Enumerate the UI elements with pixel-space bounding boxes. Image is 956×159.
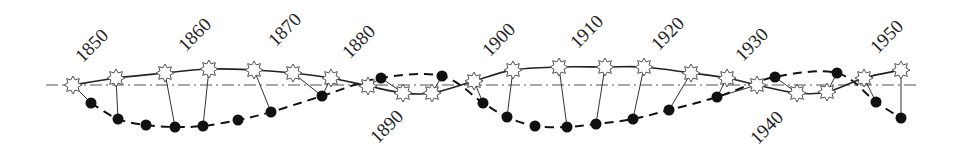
dot-marker [266,107,277,118]
dot-marker [170,122,181,133]
star-marker-icon [245,61,263,79]
star-marker-icon [423,84,441,102]
star-marker-icon [855,69,873,87]
star-marker-icon [322,69,340,87]
dot-marker [591,119,602,130]
dot-marker [233,115,244,126]
dot-marker [198,121,209,132]
dot-marker [664,105,675,116]
star-marker-icon [504,61,522,79]
star-marker-icon [359,77,377,95]
year-label: 1950 [866,16,908,58]
dot-marker [141,120,152,131]
star-marker-icon [200,60,218,78]
dot-marker [628,114,639,125]
year-label: 1870 [264,9,306,51]
year-label: 1930 [731,24,773,66]
dot-marker [113,114,124,125]
dot-marker [712,92,723,103]
year-label: 1920 [647,13,689,55]
star-marker-icon [596,58,614,76]
star-marker-icon [465,72,483,90]
year-label: 1900 [478,19,520,61]
star-marker-icon [892,61,910,79]
wave-timeline-diagram: 1850186018701880189019001910192019301940… [0,0,956,159]
dot-marker [376,73,387,84]
dot-marker [562,122,573,133]
dot-marker [478,98,489,109]
star-marker-icon [788,84,806,102]
connector-link [203,69,209,126]
dot-marker [530,121,541,132]
star-marker-icon [107,69,125,87]
star-marker-icon [748,76,766,94]
year-label: 1910 [566,11,608,53]
star-marker-icon [682,64,700,82]
star-marker-icon [64,76,82,94]
dot-marker [502,112,513,123]
connector-link [254,70,271,112]
dot-marker [896,113,907,124]
dot-marker [317,91,328,102]
star-marker-icon [550,58,568,76]
year-label: 1850 [71,25,113,67]
star-marker-icon [718,69,736,87]
connector-link [596,67,605,124]
dot-marker [86,98,97,109]
dot-marker [770,72,781,83]
star-markers [64,58,910,102]
year-label: 1890 [366,106,408,148]
year-label: 1940 [746,107,788,149]
star-marker-icon [394,84,412,102]
dot-marker [437,71,448,82]
connector-link [559,67,567,127]
connector-link [165,73,175,127]
dot-marker [832,68,843,79]
star-marker-icon [156,64,174,82]
star-marker-icon [818,83,836,101]
year-label: 1880 [338,21,380,63]
star-marker-icon [284,64,302,82]
connector-link [633,67,644,119]
star-marker-icon [635,58,653,76]
year-label: 1860 [174,14,216,56]
dot-marker [871,97,882,108]
